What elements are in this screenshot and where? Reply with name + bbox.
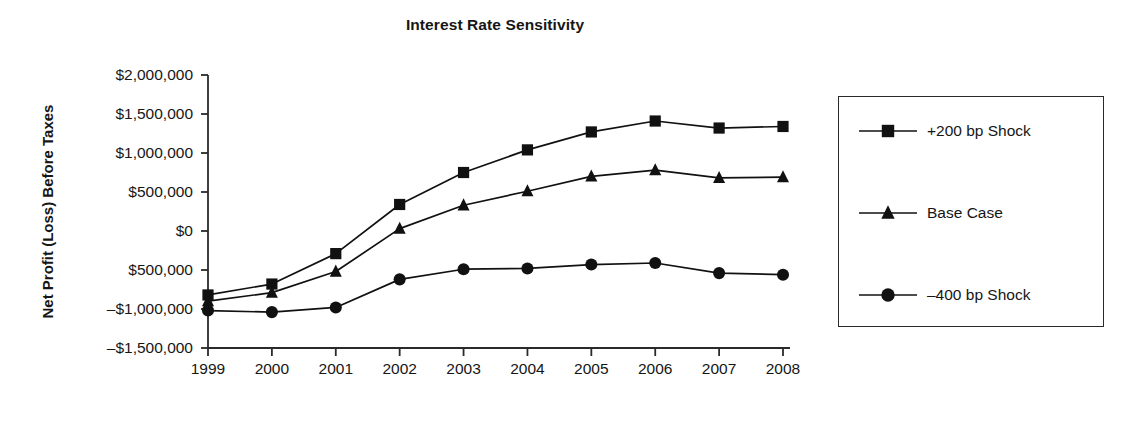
chart-figure: Interest Rate Sensitivity Net Profit (Lo… bbox=[0, 0, 1127, 428]
series-line bbox=[208, 170, 783, 301]
data-point-marker bbox=[394, 199, 405, 210]
data-point-marker bbox=[202, 305, 214, 317]
data-point-marker bbox=[777, 269, 789, 281]
legend-key-marker bbox=[881, 205, 894, 218]
data-point-marker bbox=[649, 257, 661, 269]
legend-item-label: +200 bp Shock bbox=[927, 122, 1031, 140]
data-point-marker bbox=[394, 273, 406, 285]
legend-marker-triangle-icon bbox=[857, 201, 919, 225]
data-point-marker bbox=[330, 248, 341, 259]
legend-key-glyph bbox=[857, 119, 919, 143]
data-point-marker bbox=[649, 163, 661, 175]
legend-key-glyph bbox=[857, 283, 919, 307]
data-point-marker bbox=[586, 126, 597, 137]
series-2 bbox=[202, 163, 789, 306]
legend-key-marker bbox=[882, 125, 894, 137]
data-point-marker bbox=[713, 267, 725, 279]
data-point-marker bbox=[330, 265, 342, 277]
legend-key-marker bbox=[881, 288, 894, 301]
legend-item[interactable]: Base Case bbox=[857, 201, 1003, 225]
legend-item-label: –400 bp Shock bbox=[927, 286, 1030, 304]
series-line bbox=[208, 263, 783, 312]
legend-key-glyph bbox=[857, 201, 919, 225]
series-3 bbox=[202, 257, 789, 318]
data-point-marker bbox=[777, 121, 788, 132]
data-point-marker bbox=[650, 115, 661, 126]
legend-marker-square-icon bbox=[857, 119, 919, 143]
data-point-marker bbox=[777, 170, 789, 182]
legend-item-label: Base Case bbox=[927, 204, 1003, 222]
data-point-marker bbox=[522, 144, 533, 155]
chart-legend: +200 bp ShockBase Case–400 bp Shock bbox=[838, 96, 1104, 327]
legend-item[interactable]: +200 bp Shock bbox=[857, 119, 1031, 143]
data-point-marker bbox=[458, 263, 470, 275]
legend-marker-circle-icon bbox=[857, 283, 919, 307]
data-point-marker bbox=[458, 167, 469, 178]
data-point-marker bbox=[521, 262, 533, 274]
data-point-marker bbox=[714, 122, 725, 133]
data-point-marker bbox=[330, 301, 342, 313]
series-1 bbox=[202, 115, 788, 300]
data-point-marker bbox=[266, 306, 278, 318]
legend-item[interactable]: –400 bp Shock bbox=[857, 283, 1030, 307]
data-point-marker bbox=[585, 258, 597, 270]
